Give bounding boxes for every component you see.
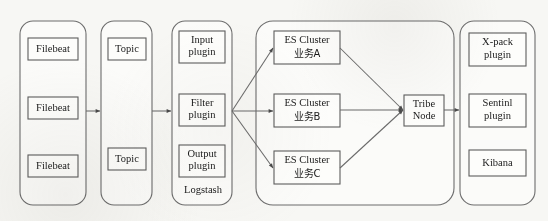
es-cluster-c-label-line2: 业务C <box>294 167 321 179</box>
xpack-plugin-label-line2: plugin <box>484 49 512 60</box>
filebeat-3-label: Filebeat <box>36 160 70 171</box>
es-cluster-b-label-line1: ES Cluster <box>284 97 330 108</box>
group-kafka: Topic Topic <box>101 21 152 205</box>
input-plugin-label-line2: plugin <box>189 46 217 57</box>
node-kibana: Kibana <box>469 150 526 176</box>
group-kibana-stack: X-pack plugin Sentinl plugin Kibana <box>460 21 535 205</box>
architecture-diagram: Filebeat Filebeat Filebeat Topic Topic <box>0 0 548 221</box>
output-plugin-label-line2: plugin <box>189 160 217 171</box>
node-sentinl-plugin: Sentinl plugin <box>469 94 526 127</box>
node-topic-1: Topic <box>108 38 146 60</box>
node-tribe-node: Tribe Node <box>404 95 444 126</box>
node-filebeat-3: Filebeat <box>28 155 78 177</box>
node-output-plugin: Output plugin <box>179 145 225 177</box>
group-beats: Filebeat Filebeat Filebeat <box>20 21 86 205</box>
es-cluster-a-label-line1: ES Cluster <box>284 34 330 45</box>
topic-2-label: Topic <box>115 153 139 164</box>
node-es-cluster-a: ES Cluster 业务A <box>274 31 340 64</box>
group-logstash: Input plugin Filter plugin Output plugin… <box>172 21 232 205</box>
tribe-node-label-line2: Node <box>413 110 436 121</box>
node-es-cluster-b: ES Cluster 业务B <box>274 94 340 127</box>
logstash-caption: Logstash <box>184 184 223 195</box>
sentinl-plugin-label-line2: plugin <box>484 110 512 121</box>
group-es-clusters: ES Cluster 业务A ES Cluster 业务B ES Cluster… <box>256 21 454 205</box>
es-cluster-b-label-line2: 业务B <box>294 110 321 122</box>
tribe-node-label-line1: Tribe <box>413 98 436 109</box>
node-filter-plugin: Filter plugin <box>179 94 225 126</box>
es-cluster-a-label-line2: 业务A <box>294 47 321 59</box>
node-input-plugin: Input plugin <box>179 31 225 63</box>
output-plugin-label-line1: Output <box>187 148 216 159</box>
node-filebeat-1: Filebeat <box>28 38 78 60</box>
es-cluster-c-label-line1: ES Cluster <box>284 154 330 165</box>
node-es-cluster-c: ES Cluster 业务C <box>274 151 340 184</box>
filter-plugin-label-line2: plugin <box>189 109 217 120</box>
filebeat-1-label: Filebeat <box>36 43 70 54</box>
node-topic-2: Topic <box>108 148 146 170</box>
filebeat-2-label: Filebeat <box>36 102 70 113</box>
kibana-label: Kibana <box>482 157 513 168</box>
sentinl-plugin-label-line1: Sentinl <box>483 97 513 108</box>
filter-plugin-label-line1: Filter <box>191 97 214 108</box>
node-xpack-plugin: X-pack plugin <box>469 33 526 66</box>
xpack-plugin-label-line1: X-pack <box>482 36 514 47</box>
topic-1-label: Topic <box>115 43 139 54</box>
node-filebeat-2: Filebeat <box>28 97 78 119</box>
input-plugin-label-line1: Input <box>191 34 213 45</box>
